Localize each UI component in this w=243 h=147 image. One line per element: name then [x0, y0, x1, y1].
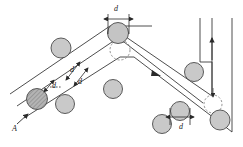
particle-right-upper [185, 63, 204, 82]
particle-apex [108, 23, 129, 44]
label-dimension-left-mid: d [78, 78, 82, 86]
label-dimension-left-lower: d [52, 82, 56, 90]
particle-right-arm [171, 102, 190, 121]
flow-arrow-solid-group [151, 70, 161, 76]
particle-group [27, 23, 231, 134]
flow-arrow-right-arm [151, 70, 161, 76]
label-dimension-bottom-right: d [179, 123, 183, 131]
particle-center [104, 80, 123, 99]
label-dimension-top: d [114, 5, 118, 13]
particle-left-arm-2 [56, 95, 75, 114]
label-dimension-left-upper: d [70, 66, 74, 74]
particle-upper-left [51, 38, 71, 58]
flow-arrow-inlet [17, 114, 28, 124]
particle-corner [210, 110, 230, 130]
ghost-particle-group [110, 40, 222, 113]
channel-diagram [0, 0, 243, 147]
label-inlet-A: A [12, 125, 17, 133]
figure-canvas: A d d d d d [0, 0, 243, 147]
